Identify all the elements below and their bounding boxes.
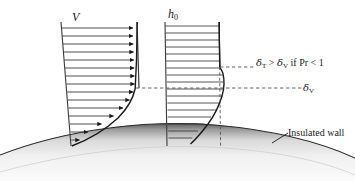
velocity-vectors	[62, 28, 135, 140]
figure-container: V h0 δT > δV if Pr < 1 δV Insulated wall	[0, 0, 355, 181]
enthalpy-subscript: 0	[174, 13, 178, 22]
comparison-operator: >	[266, 57, 277, 68]
delta-thermal-annotation: δT > δV if Pr < 1	[256, 58, 324, 70]
insulated-wall-label: Insulated wall	[288, 128, 344, 138]
prandtl-condition: if Pr < 1	[288, 57, 324, 68]
delta-viscous-subscript: V	[309, 87, 314, 95]
total-enthalpy-label: h0	[168, 8, 178, 22]
boundary-layer-diagram	[0, 0, 355, 181]
velocity-label: V	[72, 11, 79, 23]
delta-viscous-annotation: δV	[303, 83, 314, 95]
enthalpy-profile-lines	[165, 26, 223, 138]
